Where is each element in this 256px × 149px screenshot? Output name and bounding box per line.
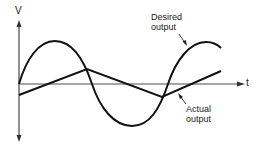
v-axis-down-arrow-icon bbox=[17, 135, 22, 142]
actual-label-line2: output bbox=[186, 114, 211, 124]
desired-output-label: Desired output bbox=[151, 12, 182, 32]
t-axis-label: t bbox=[246, 78, 249, 88]
actual-output-pointer bbox=[178, 93, 186, 104]
actual-pointer-arrow-icon bbox=[178, 93, 183, 99]
desired-label-line1: Desired bbox=[151, 12, 182, 22]
desired-label-line2: output bbox=[151, 22, 182, 32]
v-axis-label: V bbox=[15, 6, 22, 16]
v-axis-up-arrow-icon bbox=[17, 20, 22, 27]
actual-output-curve bbox=[19, 69, 221, 97]
desired-output-pointer bbox=[179, 34, 187, 46]
t-axis-arrow-icon bbox=[237, 82, 245, 87]
actual-label-line1: Actual bbox=[186, 104, 211, 114]
waveform-diagram bbox=[0, 0, 256, 149]
actual-output-label: Actual output bbox=[186, 104, 211, 124]
